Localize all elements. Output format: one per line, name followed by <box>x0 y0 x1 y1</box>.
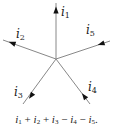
arrow-icon <box>98 40 105 45</box>
branch-label: i5 <box>86 23 95 38</box>
operator: + <box>22 113 34 125</box>
wire-line <box>23 59 56 104</box>
operator: + <box>40 113 52 125</box>
arrow-icon <box>53 7 58 14</box>
branch-i4: i4 <box>56 59 97 104</box>
arrow-icon <box>82 93 88 100</box>
branch-i2: i2 <box>3 27 56 59</box>
current-equation: i1 + i2 + i3 − i4 − i5. <box>0 113 113 126</box>
branch-label: i4 <box>88 80 97 95</box>
period: . <box>95 113 98 125</box>
branch-label: i2 <box>16 27 25 42</box>
branch-i5: i5 <box>56 23 110 59</box>
branch-label: i3 <box>14 85 23 100</box>
operator: − <box>58 113 70 125</box>
branch-label: i1 <box>61 5 70 20</box>
arrow-icon <box>9 42 16 47</box>
branch-i3: i3 <box>14 59 56 104</box>
operator: − <box>77 113 89 125</box>
branch-i1: i1 <box>53 3 70 59</box>
